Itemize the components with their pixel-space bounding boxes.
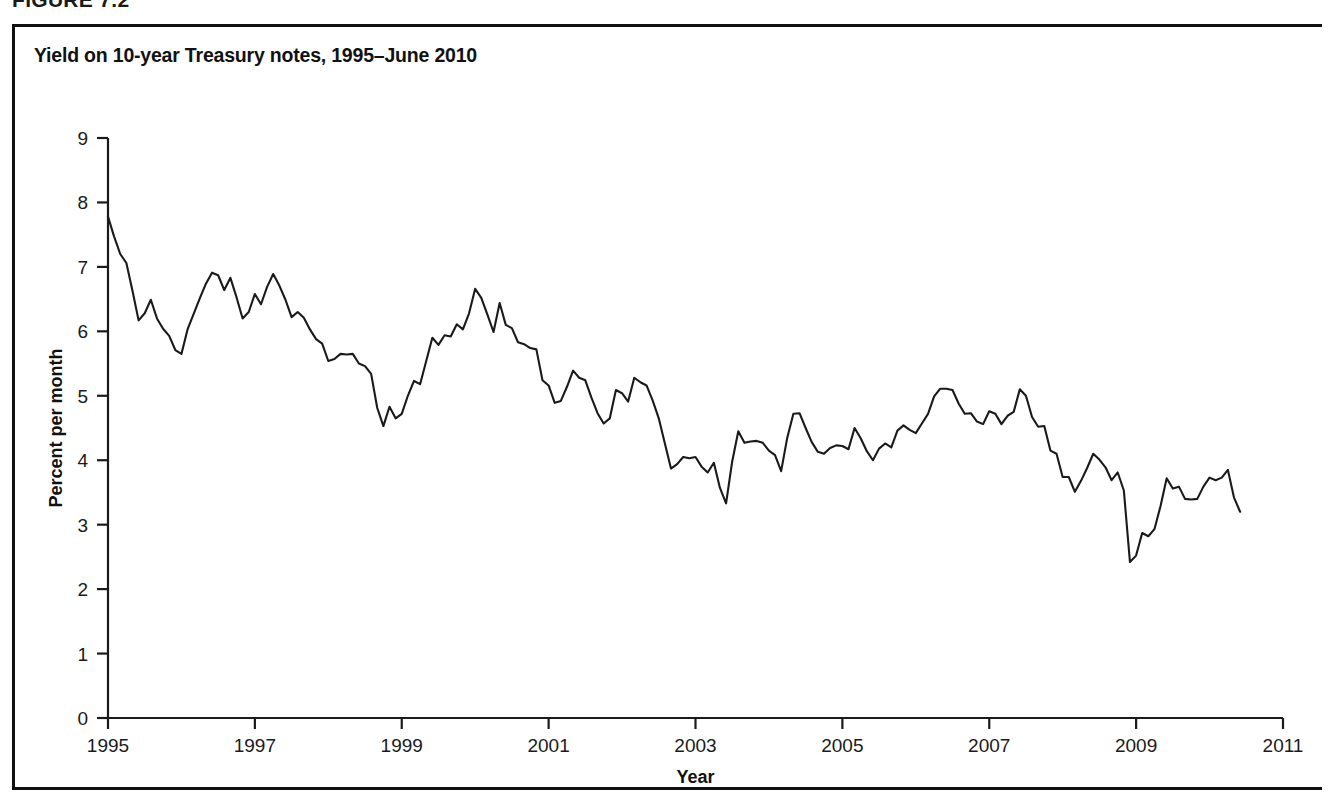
y-tick-label: 4 bbox=[77, 450, 88, 471]
x-tick-label: 1999 bbox=[381, 735, 423, 756]
data-line-treasury-yield bbox=[108, 217, 1240, 562]
y-tick-label: 7 bbox=[77, 257, 88, 278]
x-axis-title: Year bbox=[676, 767, 714, 787]
y-axis-title: Percent per month bbox=[46, 348, 66, 507]
x-tick-label: 1997 bbox=[234, 735, 276, 756]
figure-page: FIGURE 7.2 Yield on 10-year Treasury not… bbox=[0, 0, 1338, 796]
x-tick-label: 2005 bbox=[821, 735, 863, 756]
x-axis: 199519971999200120032005200720092011 bbox=[87, 718, 1304, 756]
y-axis: 0123456789 bbox=[77, 128, 108, 729]
y-tick-label: 6 bbox=[77, 321, 88, 342]
line-chart-plot: 0123456789 19951997199920012003200520072… bbox=[0, 0, 1338, 796]
x-tick-label: 1995 bbox=[87, 735, 129, 756]
data-series-group bbox=[108, 217, 1240, 562]
y-tick-label: 0 bbox=[77, 708, 88, 729]
x-tick-label: 2009 bbox=[1115, 735, 1157, 756]
y-tick-label: 5 bbox=[77, 386, 88, 407]
y-tick-label: 2 bbox=[77, 579, 88, 600]
y-tick-label: 3 bbox=[77, 515, 88, 536]
y-tick-label: 9 bbox=[77, 128, 88, 149]
x-tick-label: 2011 bbox=[1263, 735, 1304, 756]
x-tick-label: 2003 bbox=[674, 735, 716, 756]
x-tick-label: 2001 bbox=[527, 735, 569, 756]
x-tick-label: 2007 bbox=[968, 735, 1010, 756]
y-tick-label: 8 bbox=[77, 192, 88, 213]
y-tick-label: 1 bbox=[77, 644, 88, 665]
